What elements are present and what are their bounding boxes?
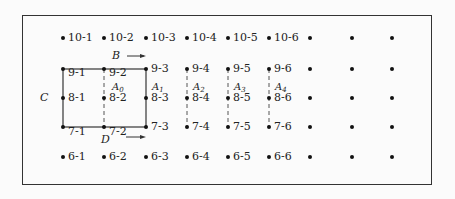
grid-point [61, 96, 65, 100]
point-label: 10-5 [233, 32, 258, 43]
grid-point [308, 125, 312, 129]
point-label: 6-5 [233, 151, 251, 162]
point-label: 7-5 [233, 121, 251, 132]
grid-point [61, 125, 65, 129]
point-label: 10-2 [109, 32, 134, 43]
point-label: 10-4 [192, 32, 217, 43]
grid-point [102, 67, 106, 71]
grid-point [61, 67, 65, 71]
point-label: 7-6 [274, 121, 292, 132]
area-label: A2 [193, 81, 205, 96]
grid-point [102, 125, 106, 129]
grid-point [102, 155, 106, 159]
grid-point [267, 125, 271, 129]
grid-point [185, 36, 189, 40]
point-label: 9-2 [109, 67, 127, 78]
point-label: 6-2 [109, 151, 127, 162]
point-label: 7-4 [192, 121, 210, 132]
point-label: 6-6 [274, 151, 292, 162]
area-label: A1 [152, 81, 164, 96]
grid-point [390, 36, 394, 40]
grid-point [102, 36, 106, 40]
grid-point [144, 125, 148, 129]
point-label: 9-1 [68, 67, 86, 78]
grid-point [226, 125, 230, 129]
area-label: A4 [275, 81, 287, 96]
grid-point [350, 96, 354, 100]
grid-point [390, 125, 394, 129]
grid-point [308, 96, 312, 100]
grid-point [144, 96, 148, 100]
grid-point [102, 96, 106, 100]
point-label: 10-3 [151, 32, 176, 43]
grid-point [61, 36, 65, 40]
grid-point [390, 155, 394, 159]
point-label: 7-2 [109, 126, 127, 137]
point-label: 6-4 [192, 151, 210, 162]
grid-point [144, 67, 148, 71]
grid-point [267, 67, 271, 71]
grid-point [144, 155, 148, 159]
grid-point [267, 36, 271, 40]
label-b: B [112, 50, 120, 61]
grid-point [185, 96, 189, 100]
point-label: 9-4 [192, 63, 210, 74]
grid-point [226, 36, 230, 40]
grid-point [226, 67, 230, 71]
grid-point [390, 67, 394, 71]
grid-point [308, 36, 312, 40]
grid-point [144, 36, 148, 40]
grid-point [350, 155, 354, 159]
grid-point [390, 96, 394, 100]
point-label: 6-3 [151, 151, 169, 162]
label-d: D [101, 134, 110, 145]
point-label: 9-3 [151, 63, 169, 74]
point-label: 7-3 [151, 121, 169, 132]
grid-point [226, 96, 230, 100]
point-label: 10-1 [68, 32, 93, 43]
grid-point [61, 155, 65, 159]
grid-point [350, 125, 354, 129]
area-label: A3 [234, 81, 246, 96]
point-label: 10-6 [274, 32, 299, 43]
grid-point [350, 67, 354, 71]
grid-point [308, 155, 312, 159]
point-label: 6-1 [68, 151, 86, 162]
label-c: C [40, 92, 48, 103]
grid-point [267, 96, 271, 100]
grid-point [185, 155, 189, 159]
point-label: 7-1 [68, 126, 86, 137]
point-label: 8-1 [68, 92, 86, 103]
grid-point [185, 67, 189, 71]
grid-point [185, 125, 189, 129]
grid-point [226, 155, 230, 159]
grid-point [267, 155, 271, 159]
grid-point [350, 36, 354, 40]
point-label: 9-5 [233, 63, 251, 74]
point-label: 9-6 [274, 63, 292, 74]
area-label: A0 [112, 81, 124, 96]
grid-point [308, 67, 312, 71]
